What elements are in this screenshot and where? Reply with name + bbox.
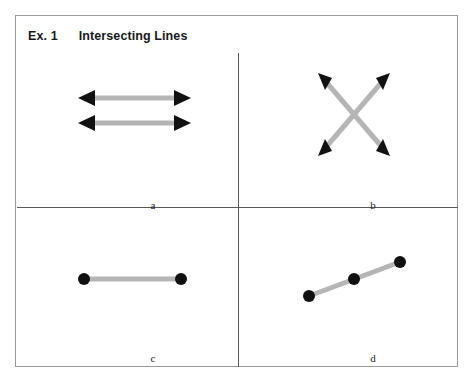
figure-example-number: Ex. 1 bbox=[28, 29, 58, 43]
figure-title-text: Intersecting Lines bbox=[79, 29, 188, 43]
figure-title: Ex. 1 Intersecting Lines bbox=[28, 29, 187, 43]
panel-label-d: d bbox=[361, 352, 385, 364]
quadrant-divider-vertical bbox=[238, 53, 239, 367]
panel-label-a: a bbox=[141, 199, 165, 211]
quadrant-divider-horizontal bbox=[17, 207, 458, 208]
figure-root: Ex. 1 Intersecting Lines a b c d bbox=[0, 0, 475, 382]
panel-label-b: b bbox=[361, 199, 385, 211]
panel-label-c: c bbox=[141, 352, 165, 364]
figure-frame: Ex. 1 Intersecting Lines a b c d bbox=[15, 15, 458, 367]
